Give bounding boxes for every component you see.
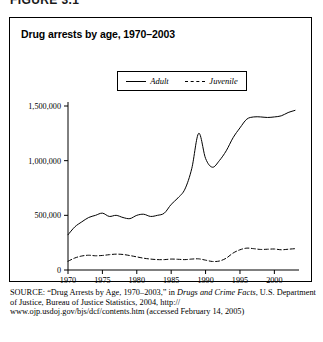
line-chart-svg: 0500,0001,000,0001,500,00019701975198019…	[10, 18, 313, 283]
figure-box: Drug arrests by age, 1970–2003 Adult Juv…	[9, 17, 312, 282]
y-axis-tick-label: 1,000,000	[28, 157, 61, 166]
y-axis-tick-label: 500,000	[34, 211, 61, 220]
x-axis-tick-label: 1980	[129, 276, 145, 283]
x-axis-tick-label: 1995	[232, 276, 248, 283]
series-line-juvenile	[68, 248, 295, 261]
y-axis-tick-label: 1,500,000	[28, 102, 61, 111]
source-line1-quoted: “Drug Arrests by Age, 1970–2003,” in	[47, 288, 177, 297]
source-line3: www.ojp.usdoj.gov/bjs/dcf/contents.htm (…	[10, 307, 244, 316]
x-axis-tick-label: 2000	[266, 276, 282, 283]
x-axis-tick-label: 1970	[60, 276, 76, 283]
series-line-adult	[68, 110, 295, 234]
x-axis-tick-label: 1975	[94, 276, 110, 283]
x-axis-tick-label: 1990	[197, 276, 213, 283]
plot-area: 0500,0001,000,0001,500,00019701975198019…	[10, 18, 313, 283]
source-line1-italic: Drugs and Crime Facts	[177, 288, 256, 297]
x-axis-tick-label: 1985	[163, 276, 179, 283]
figure-heading: FIGURE 3.1	[10, 0, 79, 7]
source-line1-tail: ,	[256, 288, 258, 297]
y-axis-tick-label: 0	[57, 266, 61, 275]
source-note: SOURCE: “Drug Arrests by Age, 1970–2003,…	[10, 288, 316, 317]
source-label: SOURCE:	[10, 288, 45, 297]
